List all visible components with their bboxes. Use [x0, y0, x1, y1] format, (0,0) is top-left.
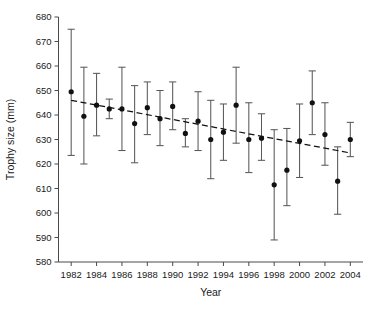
y-tick-label: 660 [36, 60, 52, 71]
x-axis-title: Year [200, 286, 222, 298]
data-point-marker [322, 132, 327, 137]
data-point-group [334, 147, 341, 214]
data-point-group [144, 82, 151, 135]
data-point-group [169, 82, 176, 130]
data-point-group [131, 86, 138, 163]
data-point-group [347, 122, 354, 156]
data-point-marker [335, 179, 340, 184]
y-axis-title: Trophy size (mm) [4, 99, 16, 180]
data-point-marker [272, 182, 277, 187]
data-point-marker [119, 106, 124, 111]
data-point-group [321, 103, 328, 165]
data-point-marker [145, 105, 150, 110]
data-point-marker [132, 121, 137, 126]
data-point-marker [284, 168, 289, 173]
data-point-group [271, 130, 278, 240]
y-tick-label: 600 [36, 207, 52, 218]
data-point-group [233, 67, 240, 143]
y-tick-label: 670 [36, 36, 52, 47]
data-point-group [283, 128, 290, 205]
data-point-group [220, 104, 227, 160]
data-point-marker [221, 130, 226, 135]
data-point-marker [170, 104, 175, 109]
x-tick-label: 1994 [213, 269, 234, 280]
x-tick-label: 2002 [314, 269, 335, 280]
data-point-group [68, 29, 75, 155]
data-point-marker [310, 100, 315, 105]
x-tick-label: 1988 [137, 269, 158, 280]
y-tick-label: 620 [36, 158, 52, 169]
x-tick-label: 2004 [340, 269, 361, 280]
data-point-marker [348, 137, 353, 142]
data-point-marker [195, 119, 200, 124]
x-tick-label: 1992 [187, 269, 208, 280]
x-tick-label: 1990 [162, 269, 183, 280]
x-tick-label: 2000 [289, 269, 310, 280]
y-tick-label: 610 [36, 183, 52, 194]
data-point-marker [234, 103, 239, 108]
x-tick-label: 1998 [264, 269, 285, 280]
chart-figure: 5805906006106206306406506606706801982198… [0, 0, 376, 313]
x-tick-label: 1996 [238, 269, 259, 280]
y-tick-label: 640 [36, 109, 52, 120]
data-point-marker [208, 137, 213, 142]
data-point-group [80, 67, 87, 164]
data-point-group [245, 103, 252, 173]
trophy-size-scatter-plot: 5805906006106206306406506606706801982198… [0, 0, 376, 313]
x-tick-label: 1982 [61, 269, 82, 280]
data-point-group [194, 92, 201, 151]
y-tick-label: 590 [36, 232, 52, 243]
data-point-group [106, 99, 113, 119]
data-point-marker [81, 114, 86, 119]
y-tick-label: 630 [36, 134, 52, 145]
data-point-marker [69, 89, 74, 94]
y-tick-label: 580 [36, 256, 52, 267]
data-point-group [156, 91, 163, 146]
x-tick-label: 1984 [86, 269, 107, 280]
data-point-group [207, 100, 214, 178]
y-tick-label: 650 [36, 85, 52, 96]
x-tick-label: 1986 [111, 269, 132, 280]
data-point-marker [246, 137, 251, 142]
data-point-group [296, 104, 303, 178]
data-point-marker [183, 131, 188, 136]
y-tick-label: 680 [36, 11, 52, 22]
data-point-group [309, 71, 316, 135]
data-point-group [258, 114, 265, 161]
